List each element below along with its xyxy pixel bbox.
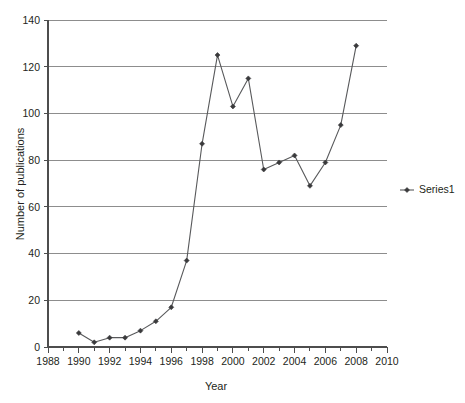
x-tick-label-1988: 1988: [36, 355, 60, 367]
x-tick-label-1998: 1998: [190, 355, 214, 367]
y-axis: 020406080100120140: [22, 14, 48, 353]
x-tick-label-1992: 1992: [98, 355, 122, 367]
x-axis-title: Year: [205, 380, 228, 392]
x-tick-label-2010: 2010: [375, 355, 399, 367]
data-point-1994: [138, 328, 143, 333]
data-point-2008: [354, 43, 359, 48]
data-point-1998: [200, 141, 205, 146]
y-tick-label-100: 100: [22, 107, 40, 119]
x-tick-label-2002: 2002: [252, 355, 276, 367]
y-tick-label-140: 140: [22, 14, 40, 26]
data-point-1993: [123, 335, 128, 340]
publications-line-chart: 020406080100120140 198819901992199419961…: [0, 0, 465, 403]
x-tick-label-2000: 2000: [221, 355, 245, 367]
data-point-1992: [107, 335, 112, 340]
x-tick-label-2006: 2006: [314, 355, 338, 367]
x-tick-label-1996: 1996: [160, 355, 184, 367]
x-tick-label-1990: 1990: [67, 355, 91, 367]
chart-legend: Series1: [400, 183, 455, 195]
data-point-2001: [246, 76, 251, 81]
data-point-2002: [261, 167, 266, 172]
y-axis-title: Number of publications: [14, 127, 26, 240]
data-point-2004: [292, 153, 297, 158]
data-point-2003: [277, 160, 282, 165]
x-tick-label-1994: 1994: [129, 355, 153, 367]
data-point-1999: [215, 53, 220, 58]
y-tick-label-20: 20: [28, 294, 40, 306]
series-line-1: [79, 46, 356, 343]
x-tick-label-2004: 2004: [283, 355, 307, 367]
data-point-2007: [338, 123, 343, 128]
x-tick-label-2008: 2008: [345, 355, 369, 367]
y-tick-label-40: 40: [28, 247, 40, 259]
y-tick-label-60: 60: [28, 201, 40, 213]
data-point-1991: [92, 340, 97, 345]
legend-marker-icon: [405, 188, 410, 193]
y-tick-label-0: 0: [34, 341, 40, 353]
x-axis: 1988199019921994199619982000200220042006…: [36, 347, 399, 367]
legend-label-1: Series1: [419, 183, 455, 195]
data-series: [76, 43, 358, 345]
data-point-1990: [76, 330, 81, 335]
y-tick-label-120: 120: [22, 61, 40, 73]
gridlines: [48, 20, 387, 347]
data-point-1997: [184, 258, 189, 263]
chart-container: 020406080100120140 198819901992199419961…: [0, 0, 465, 403]
y-tick-label-80: 80: [28, 154, 40, 166]
data-point-2000: [230, 104, 235, 109]
